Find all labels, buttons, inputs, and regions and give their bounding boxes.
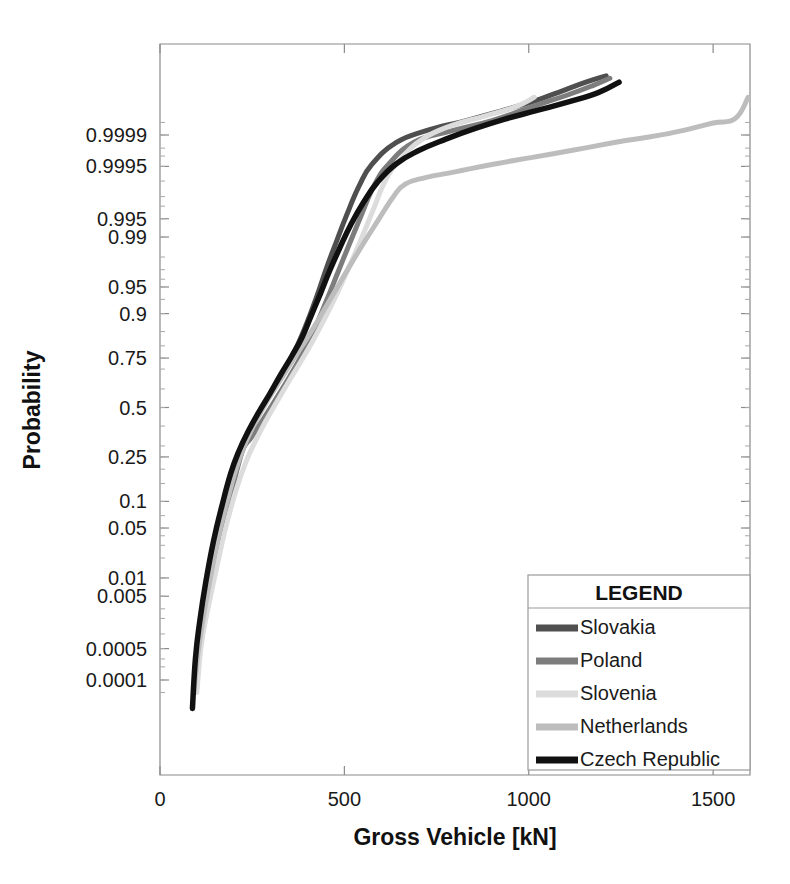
y-axis-title: Probability	[19, 350, 45, 469]
y-tick-label: 0.9	[119, 303, 147, 325]
y-tick-label: 0.0001	[86, 669, 147, 691]
probability-plot: 0.99990.99950.9950.990.950.90.750.50.250…	[0, 0, 790, 884]
y-tick-label: 0.25	[108, 446, 147, 468]
chart-page: 0.99990.99950.9950.990.950.90.750.50.250…	[0, 0, 790, 884]
y-tick-label: 0.005	[97, 585, 147, 607]
y-tick-label: 0.05	[108, 517, 147, 539]
x-tick-label: 1000	[507, 788, 552, 810]
x-tick-label: 500	[328, 788, 361, 810]
x-axis-title: Gross Vehicle [kN]	[353, 824, 556, 850]
x-tick-label: 0	[154, 788, 165, 810]
legend-label-poland: Poland	[580, 649, 642, 671]
y-tick-label: 0.95	[108, 276, 147, 298]
y-tick-label: 0.9999	[86, 124, 147, 146]
legend-box	[528, 575, 750, 770]
legend-title: LEGEND	[595, 581, 683, 604]
legend-label-slovakia: Slovakia	[580, 616, 656, 638]
x-tick-label: 1500	[691, 788, 736, 810]
y-tick-label: 0.99	[108, 226, 147, 248]
y-tick-label: 0.75	[108, 347, 147, 369]
legend-label-slovenia: Slovenia	[580, 682, 658, 704]
y-tick-label: 0.5	[119, 397, 147, 419]
y-tick-label: 0.9995	[86, 155, 147, 177]
y-tick-label: 0.0005	[86, 638, 147, 660]
legend-label-netherlands: Netherlands	[580, 715, 688, 737]
y-tick-label: 0.1	[119, 490, 147, 512]
legend: LEGEND SlovakiaPolandSloveniaNetherlands…	[528, 575, 750, 770]
legend-label-czech-republic: Czech Republic	[580, 748, 720, 770]
